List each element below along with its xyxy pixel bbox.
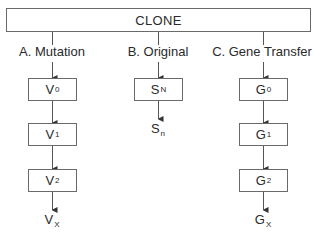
node-g0: G0: [239, 78, 288, 101]
terminal-gx: GX: [255, 212, 271, 229]
terminal-sub: n: [161, 129, 165, 138]
terminal-base: G: [255, 212, 265, 227]
node-base: V: [45, 82, 54, 97]
node-sub: 0: [55, 85, 59, 94]
clone-label: CLONE: [135, 13, 181, 28]
node-base: S: [151, 82, 160, 97]
node-g1: G1: [239, 123, 288, 146]
node-base: V: [45, 173, 54, 188]
node-sn: SN: [134, 78, 183, 101]
node-sub: 0: [267, 85, 271, 94]
node-v1: V1: [28, 123, 77, 146]
node-sub: N: [160, 85, 166, 94]
clone-box: CLONE: [6, 8, 311, 32]
node-base: G: [256, 173, 266, 188]
connector-lines: [0, 0, 314, 235]
terminal-sub: X: [54, 220, 59, 229]
node-base: V: [45, 127, 54, 142]
node-sub: 1: [55, 130, 59, 139]
terminal-sn: Sn: [151, 121, 165, 138]
terminal-base: S: [151, 121, 160, 136]
branch-a-label: A. Mutation: [19, 44, 85, 59]
terminal-vx: VX: [44, 212, 59, 229]
terminal-sub: X: [266, 220, 271, 229]
node-v2: V2: [28, 169, 77, 192]
branch-c-label: C. Gene Transfer: [212, 44, 312, 59]
node-base: G: [256, 82, 266, 97]
node-sub: 2: [267, 176, 271, 185]
node-base: G: [256, 127, 266, 142]
node-sub: 1: [267, 130, 271, 139]
branch-b-label: B. Original: [128, 44, 189, 59]
node-v0: V0: [28, 78, 77, 101]
node-g2: G2: [239, 169, 288, 192]
node-sub: 2: [55, 176, 59, 185]
terminal-base: V: [44, 212, 53, 227]
